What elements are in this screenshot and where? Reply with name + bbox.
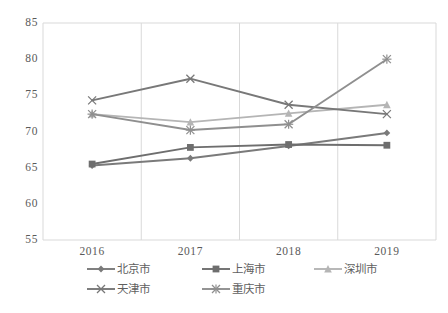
legend-marker-triangle-icon [313,262,343,276]
data-point-square [89,161,96,168]
y-tick-label: 65 [8,161,38,173]
x-tick-label: 2019 [357,245,417,257]
chart-legend: 北京市上海市深圳市天津市重庆市 [0,259,448,313]
legend-marker-square-icon [201,262,231,276]
legend-row: 天津市重庆市 [0,279,448,299]
data-point-diamond [98,266,105,273]
data-point-square [213,266,220,273]
data-point-square [187,144,194,151]
plot-svg [0,0,448,258]
legend-label: 上海市 [231,262,265,276]
legend-label: 北京市 [116,262,150,276]
data-point-asterisk [186,125,195,134]
y-tick-label: 55 [8,233,38,245]
data-point-asterisk [382,55,391,64]
legend-label: 天津市 [116,282,150,296]
data-point-asterisk [88,110,97,119]
legend-item[interactable]: 北京市 [86,259,201,279]
y-tick-label: 80 [8,52,38,64]
legend-marker-cross-icon [86,282,116,296]
legend-row: 北京市上海市深圳市 [0,259,448,279]
legend-item[interactable]: 天津市 [86,279,201,299]
y-tick-label: 70 [8,125,38,137]
legend-marker-asterisk-icon [201,282,231,296]
data-point-asterisk [211,284,220,293]
y-tick-label: 75 [8,88,38,100]
legend-item[interactable]: 深圳市 [313,259,425,279]
gridlines [141,23,338,240]
legend-label: 重庆市 [231,282,265,296]
x-tick-label: 2017 [160,245,220,257]
data-point-asterisk [284,120,293,129]
line-chart: 85807570656055 2016201720182019 北京市上海市深圳… [0,0,448,313]
legend-label: 深圳市 [343,262,377,276]
x-tick-label: 2018 [259,245,319,257]
legend-marker-diamond-icon [86,262,116,276]
y-tick-label: 60 [8,197,38,209]
data-point-diamond [187,155,194,162]
plot-area [0,0,448,258]
y-tick-label: 85 [8,16,38,28]
data-point-square [383,142,390,149]
x-tick-label: 2016 [62,245,122,257]
data-point-square [285,141,292,148]
legend-item[interactable]: 重庆市 [201,279,313,299]
legend-item[interactable]: 上海市 [201,259,313,279]
data-point-diamond [383,130,390,137]
